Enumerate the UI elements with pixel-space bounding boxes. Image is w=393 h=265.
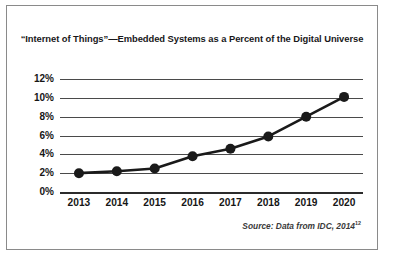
y-axis-tick-label: 0% (10, 187, 54, 197)
y-axis-tick-label: 2% (10, 168, 54, 178)
data-point-marker: 2015: 2.5% (150, 163, 160, 173)
y-axis-tick-label: 6% (10, 131, 54, 141)
data-point-marker: 2019: 8% (301, 112, 311, 122)
y-axis-tick-label: 8% (10, 112, 54, 122)
data-point-marker: 2014: 2.2% (112, 166, 122, 176)
y-axis-tick-label: 4% (10, 149, 54, 159)
x-axis-tick-labels: 20132014201520162017201820192020 (60, 197, 363, 213)
data-point-marker: 2016: 3.8% (188, 151, 198, 161)
y-axis-tick-labels: 12%10%8%6%4%2%0% (10, 79, 54, 192)
source-note: Source: Data from IDC, 201412 (6, 220, 361, 231)
data-point-marker: 2018: 5.9% (263, 131, 273, 141)
series-line (79, 97, 344, 173)
chart-title: “Internet of Things”—Embedded Systems as… (6, 33, 378, 44)
chart-figure: “Internet of Things”—Embedded Systems as… (0, 0, 393, 265)
x-axis-tick-label: 2020 (322, 197, 366, 208)
y-axis-tick-label: 12% (10, 74, 54, 84)
source-note-superscript: 12 (355, 220, 361, 226)
data-point-marker: 2017: 4.6% (225, 144, 235, 154)
source-note-text: Source: Data from IDC, 2014 (242, 221, 355, 231)
y-axis-tick-label: 10% (10, 93, 54, 103)
data-series-line: 2013: 2%2014: 2.2%2015: 2.5%2016: 3.8%20… (60, 60, 370, 200)
data-point-marker: 2013: 2% (74, 168, 84, 178)
data-point-marker: 2020: 10.1% (339, 92, 349, 102)
